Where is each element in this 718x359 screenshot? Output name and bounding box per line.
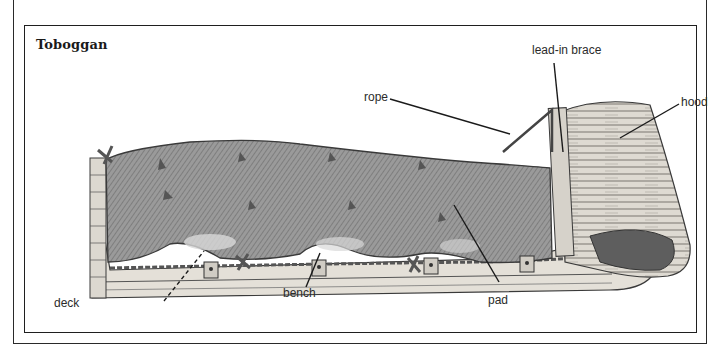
label-hood: hood — [681, 95, 708, 109]
label-bench: bench — [283, 286, 316, 300]
toboggan-illustration — [0, 0, 718, 359]
rope-brace — [503, 110, 552, 152]
hood-drawing — [548, 102, 690, 277]
label-rope: rope — [364, 90, 388, 104]
label-deck: deck — [54, 296, 79, 310]
label-pad: pad — [488, 293, 508, 307]
pad-drawing — [98, 140, 552, 272]
label-lead-in-brace: lead-in brace — [532, 43, 601, 57]
